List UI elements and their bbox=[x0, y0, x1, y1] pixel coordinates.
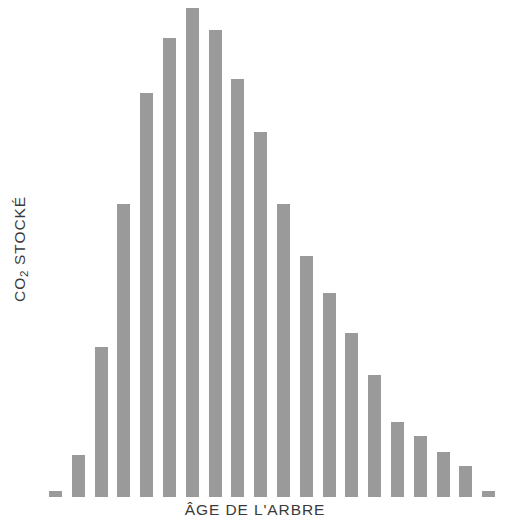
bar bbox=[140, 93, 153, 497]
bar bbox=[414, 436, 427, 497]
bar bbox=[163, 38, 176, 497]
bar bbox=[459, 466, 472, 497]
bar bbox=[323, 293, 336, 497]
y-axis-label-suffix: STOCKÉ bbox=[11, 196, 28, 270]
bar bbox=[231, 79, 244, 497]
bar bbox=[300, 256, 313, 497]
bar bbox=[277, 204, 290, 497]
plot-area bbox=[44, 0, 500, 497]
bar bbox=[437, 452, 450, 497]
bar bbox=[186, 8, 199, 497]
bar bbox=[95, 347, 108, 497]
y-axis-label-text: CO2 STOCKÉ bbox=[11, 196, 29, 302]
bar-chart: CO2 STOCKÉ ÂGE DE L'ARBRE bbox=[0, 0, 510, 527]
y-axis-label: CO2 STOCKÉ bbox=[0, 0, 40, 497]
bar bbox=[368, 375, 381, 497]
bar bbox=[482, 491, 495, 497]
bar bbox=[391, 422, 404, 497]
y-axis-label-subscript: 2 bbox=[18, 270, 30, 277]
y-axis-label-prefix: CO bbox=[11, 276, 28, 301]
bar bbox=[49, 491, 62, 497]
bar bbox=[345, 333, 358, 497]
x-axis-label: ÂGE DE L'ARBRE bbox=[0, 501, 510, 519]
bar bbox=[117, 204, 130, 497]
bar bbox=[254, 132, 267, 497]
bar bbox=[72, 455, 85, 497]
bar bbox=[209, 30, 222, 497]
